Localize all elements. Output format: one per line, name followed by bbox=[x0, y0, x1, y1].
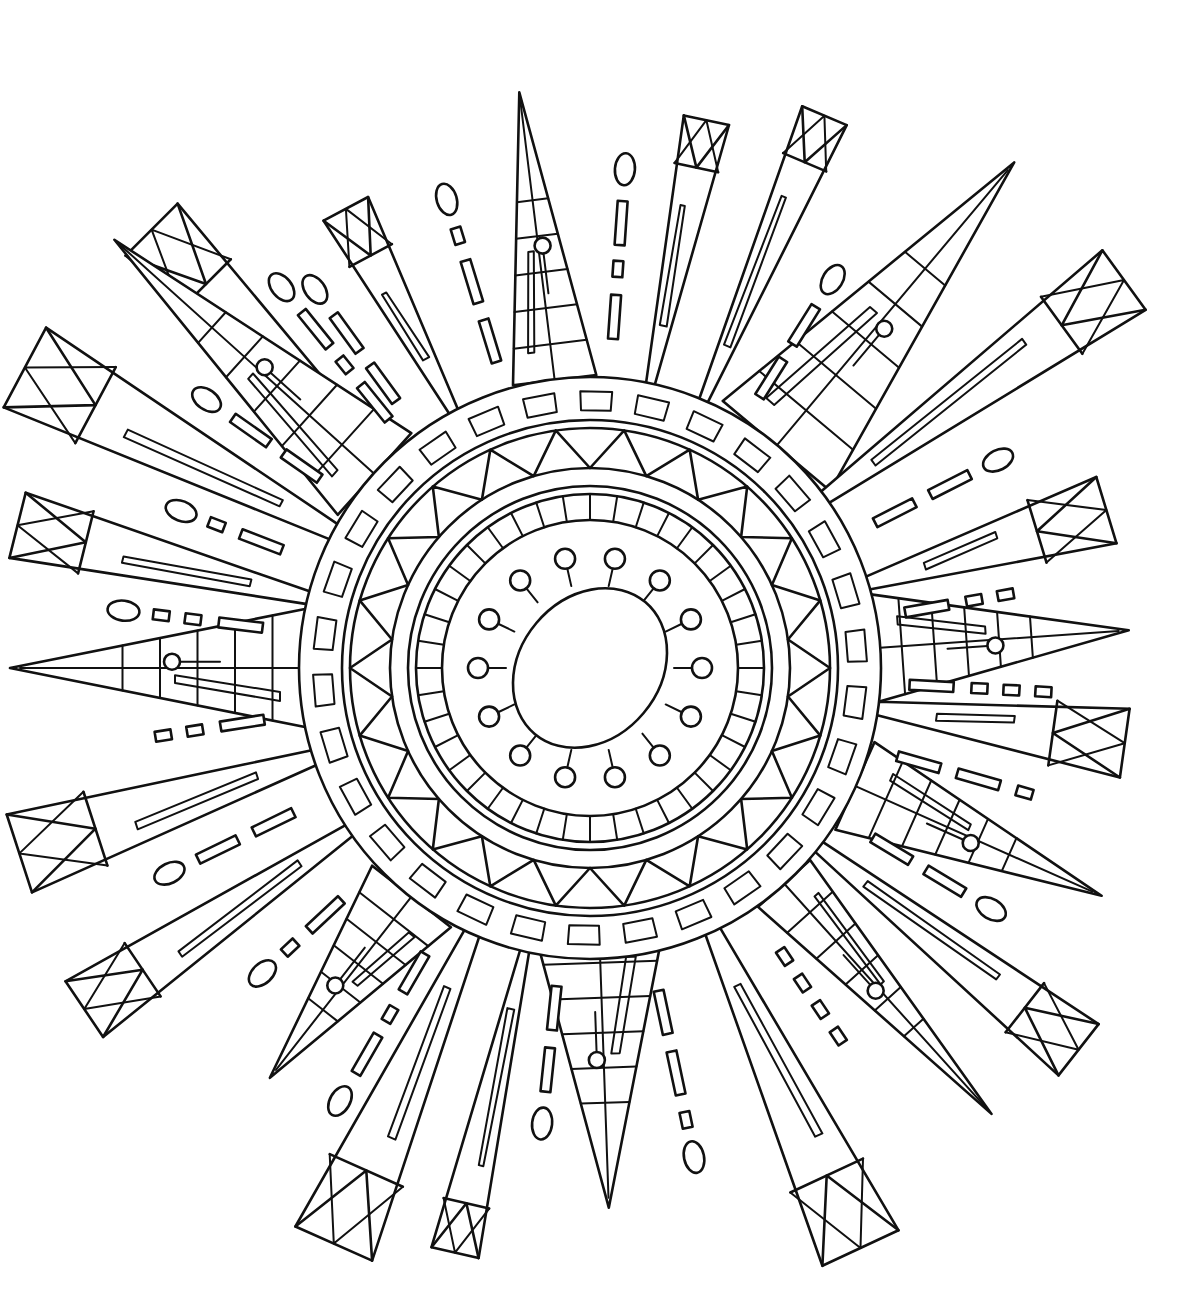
bead bbox=[605, 549, 625, 569]
bead bbox=[555, 549, 575, 569]
dash-mark bbox=[873, 498, 917, 527]
bead bbox=[681, 609, 701, 629]
bead bbox=[681, 707, 701, 727]
ray-outline bbox=[835, 742, 1101, 896]
ray-bead bbox=[257, 359, 273, 375]
dash-mark bbox=[654, 990, 673, 1035]
small-dash-mark bbox=[830, 1027, 847, 1046]
ray-bead bbox=[987, 637, 1003, 653]
oval-mark bbox=[816, 261, 850, 299]
oval-mark bbox=[681, 1139, 707, 1174]
mandala-rings bbox=[299, 377, 881, 959]
bead bbox=[555, 767, 575, 787]
oval-mark bbox=[323, 1082, 356, 1120]
gap-mark-column bbox=[432, 181, 501, 363]
sunburst-mandala-artwork bbox=[0, 0, 1179, 1313]
ray-left-point bbox=[10, 608, 310, 728]
small-dash-mark bbox=[965, 594, 983, 607]
dash-mark bbox=[330, 312, 364, 354]
bead bbox=[479, 707, 499, 727]
ray-top-left-mid bbox=[324, 197, 459, 414]
bead bbox=[468, 658, 488, 678]
oval-mark bbox=[163, 496, 200, 526]
small-dash-mark bbox=[207, 517, 226, 532]
gap-mark-column bbox=[909, 680, 1051, 697]
small-dash-mark bbox=[794, 974, 811, 993]
bead bbox=[650, 570, 670, 590]
dash-mark bbox=[909, 680, 954, 692]
dash-mark bbox=[252, 808, 296, 836]
oval-mark bbox=[106, 599, 140, 623]
ray-bead bbox=[876, 321, 892, 337]
dash-mark bbox=[928, 470, 972, 499]
small-dash-mark bbox=[382, 1005, 399, 1024]
dash-mark bbox=[239, 529, 284, 554]
oval-mark bbox=[530, 1107, 553, 1141]
dash-mark bbox=[306, 896, 345, 933]
ray-bead bbox=[164, 654, 180, 670]
ray-bead bbox=[868, 983, 884, 999]
small-dash-mark bbox=[1015, 786, 1033, 800]
oval-mark bbox=[979, 444, 1017, 476]
dash-mark bbox=[220, 715, 265, 732]
oval-mark bbox=[264, 268, 300, 305]
gap-mark-column bbox=[608, 153, 636, 340]
oval-mark bbox=[151, 857, 189, 889]
dash-mark bbox=[608, 295, 621, 340]
oval-mark bbox=[244, 955, 281, 991]
small-dash-mark bbox=[997, 588, 1015, 601]
small-dash-mark bbox=[281, 939, 300, 957]
dash-mark bbox=[667, 1050, 686, 1095]
ray-right-a bbox=[865, 477, 1116, 590]
ray-bead bbox=[535, 238, 551, 254]
bead bbox=[510, 746, 530, 766]
small-dash-mark bbox=[1003, 685, 1020, 696]
small-dash-mark bbox=[776, 947, 793, 966]
bead bbox=[605, 767, 625, 787]
ray-outline bbox=[646, 115, 729, 385]
small-dash-mark bbox=[612, 261, 623, 278]
gap-mark-column bbox=[155, 715, 265, 742]
gap-mark-column bbox=[530, 986, 561, 1141]
small-dash-mark bbox=[336, 356, 354, 375]
oval-mark bbox=[297, 271, 332, 309]
ray-top-center bbox=[513, 92, 596, 385]
bead bbox=[479, 609, 499, 629]
dash-mark bbox=[541, 1047, 556, 1092]
oval-mark bbox=[432, 181, 460, 217]
gap-mark-column bbox=[106, 599, 263, 633]
ray-stick bbox=[595, 1012, 596, 1052]
ray-outline bbox=[324, 197, 459, 414]
bead bbox=[510, 570, 530, 590]
ray-top-right-a bbox=[646, 115, 729, 385]
dash-mark bbox=[461, 259, 483, 304]
coloring-page-canvas bbox=[0, 0, 1179, 1313]
gap-mark-column bbox=[654, 990, 707, 1175]
dash-mark bbox=[196, 835, 240, 863]
dash-mark bbox=[352, 1033, 383, 1076]
small-dash-mark bbox=[451, 227, 465, 245]
dash-mark bbox=[615, 201, 628, 246]
dash-mark bbox=[298, 309, 333, 350]
small-dash-mark bbox=[184, 613, 201, 625]
small-dash-mark bbox=[155, 729, 172, 741]
oval-mark bbox=[972, 892, 1010, 926]
dash-mark bbox=[923, 866, 966, 897]
small-dash-mark bbox=[186, 724, 203, 736]
ray-right-lower bbox=[835, 742, 1101, 896]
oval-mark bbox=[188, 382, 226, 417]
small-dash-mark bbox=[812, 1000, 829, 1019]
ray-bead bbox=[589, 1052, 605, 1068]
ray-bead bbox=[963, 835, 979, 851]
small-dash-mark bbox=[1035, 686, 1052, 697]
dash-mark bbox=[956, 769, 1001, 791]
bead bbox=[650, 746, 670, 766]
ray-bead bbox=[327, 977, 343, 993]
bead bbox=[692, 658, 712, 678]
small-dash-mark bbox=[153, 609, 170, 621]
dash-mark bbox=[479, 318, 501, 363]
small-dash-mark bbox=[971, 683, 988, 694]
oval-mark bbox=[614, 153, 636, 186]
small-dash-mark bbox=[680, 1111, 693, 1129]
